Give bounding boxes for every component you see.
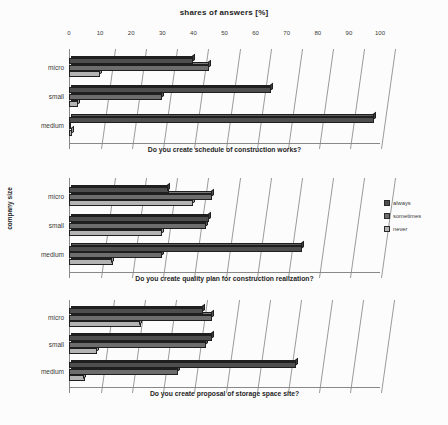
bar-medium-always (69, 117, 374, 123)
bar-top-face (71, 243, 303, 245)
x-tick-60: 60 (252, 30, 259, 36)
bar-small-never (69, 348, 97, 354)
category-label-medium: medium (0, 122, 64, 129)
grid-line-50 (226, 300, 240, 393)
bar-micro-never (69, 71, 100, 77)
category-label-small: small (0, 93, 64, 100)
grid-line-100 (381, 300, 395, 393)
bar-micro-always (69, 58, 193, 64)
bar-body (69, 348, 97, 354)
bar-micro-sometimes (69, 315, 212, 321)
bar-small-never (69, 230, 162, 236)
grid-line-100 (381, 49, 396, 149)
bar-body (69, 94, 162, 100)
bar-medium-sometimes (69, 123, 70, 129)
axis-baseline (69, 272, 380, 273)
bar-top-face (71, 185, 170, 187)
bar-top-face (71, 333, 213, 335)
bar-top-face (71, 214, 210, 216)
bar-medium-sometimes (69, 369, 178, 375)
chart-figure: shares of answers [%] company size 01020… (0, 0, 448, 425)
grid-line-80 (319, 300, 333, 393)
x-tick-20: 20 (128, 30, 135, 36)
panel-title-1: Do you create schedule of construction w… (69, 146, 380, 153)
panel-title-2: Do you create quality plan for construct… (69, 275, 380, 282)
chart-panel-1: microsmallmediumDo you create schedule o… (0, 49, 448, 149)
bar-body (69, 259, 113, 265)
bar-micro-always (69, 308, 203, 314)
bar-body (69, 117, 374, 123)
legend-item-never[interactable]: never (384, 226, 446, 232)
category-label-medium: medium (0, 368, 64, 375)
bar-top-face (71, 360, 297, 362)
legend-swatch-icon (384, 226, 390, 232)
bar-body (69, 369, 178, 375)
bar-body (69, 362, 296, 368)
legend-swatch-icon (384, 213, 390, 219)
bar-body (69, 342, 206, 348)
x-tick-70: 70 (283, 30, 290, 36)
x-tick-30: 30 (159, 30, 166, 36)
bar-body (69, 123, 71, 129)
bar-body (69, 58, 193, 64)
grid-line-80 (319, 178, 334, 278)
bar-micro-always (69, 187, 169, 193)
bar-body (69, 335, 212, 341)
bar-small-never (69, 101, 78, 107)
bar-medium-never (69, 375, 85, 381)
bar-medium-sometimes (69, 252, 162, 258)
legend-item-sometimes[interactable]: sometimes (384, 213, 446, 219)
x-tick-0: 0 (67, 30, 70, 36)
legend-label: never (393, 226, 408, 232)
bar-micro-never (69, 200, 193, 206)
bar-small-always (69, 87, 271, 93)
bar-top-face (71, 306, 204, 308)
bar-top-face (71, 114, 375, 116)
bar-body (69, 246, 302, 252)
legend-label: sometimes (393, 213, 421, 219)
category-label-micro: micro (0, 64, 64, 71)
category-label-small: small (0, 222, 64, 229)
bar-micro-sometimes (69, 65, 209, 71)
legend-label: always (393, 200, 411, 206)
axis-baseline (69, 387, 380, 388)
bar-small-always (69, 335, 212, 341)
bar-body (69, 321, 141, 327)
bar-medium-never (69, 130, 72, 136)
panel-title-3: Do you create proposal of storage space … (69, 390, 380, 397)
bar-body (69, 65, 209, 71)
grid-line-50 (226, 49, 241, 149)
legend-swatch-icon (384, 200, 390, 206)
grid-line-90 (350, 300, 364, 393)
legend-item-always[interactable]: always (384, 200, 446, 206)
category-label-micro: micro (0, 193, 64, 200)
grid-line-80 (319, 49, 334, 149)
bar-small-always (69, 216, 209, 222)
bar-micro-sometimes (69, 194, 212, 200)
x-tick-50: 50 (221, 30, 228, 36)
bar-body (69, 223, 206, 229)
chart-legend: alwayssometimesnever (384, 200, 446, 239)
bar-body (69, 308, 203, 314)
grid-line-90 (350, 49, 365, 149)
bar-body (69, 200, 193, 206)
bar-body (69, 252, 162, 258)
category-label-medium: medium (0, 251, 64, 258)
x-tick-100: 100 (375, 30, 385, 36)
x-tick-40: 40 (190, 30, 197, 36)
bar-body (69, 71, 100, 77)
bar-medium-always (69, 362, 296, 368)
bar-body (69, 315, 212, 321)
axis-baseline (69, 143, 380, 144)
bar-small-sometimes (69, 342, 206, 348)
chart-panel-3: microsmallmediumDo you create proposal o… (0, 300, 448, 393)
chart-panel-2: microsmallmediumDo you create quality pl… (0, 178, 448, 278)
category-label-micro: micro (0, 314, 64, 321)
grid-line-50 (226, 178, 241, 278)
bar-medium-always (69, 246, 302, 252)
bar-medium-never (69, 259, 113, 265)
bar-top-face (71, 56, 194, 58)
x-axis-ticks: 0102030405060708090100 (0, 30, 448, 42)
bar-body (69, 216, 209, 222)
grid-line-60 (257, 300, 271, 393)
